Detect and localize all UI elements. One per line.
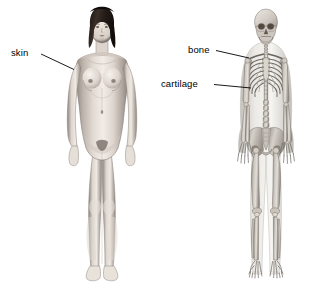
female-body-figure: [52, 2, 152, 282]
skeleton-bones: [238, 9, 295, 278]
label-bone: bone: [188, 45, 210, 55]
skeleton-figure: [218, 2, 324, 282]
lumbar-vertebrae: [263, 100, 269, 127]
patella-bone: [254, 212, 259, 216]
cervical-vertebrae: [264, 45, 267, 53]
label-skin: skin: [11, 48, 28, 58]
label-cartilage: cartilage: [161, 79, 198, 89]
female-body-silhouette: [67, 7, 137, 281]
anatomy-diagram: skin bone cartilage: [0, 0, 327, 285]
tibia-fibula-bone: [252, 217, 281, 260]
skull-bone: [255, 9, 278, 45]
